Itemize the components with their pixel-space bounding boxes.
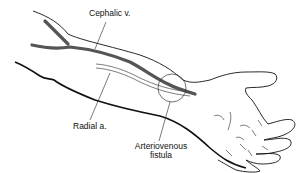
fistula-highlight-circle [158,74,186,102]
forearm-lower-outline [15,62,246,168]
fistula-leader-line [159,102,170,141]
cephalic-vein-branch [45,21,68,44]
hand-thumb-outline [210,72,277,100]
cephalic-vein [32,45,195,94]
label-arteriovenous-fistula: Arteriovenous fistula [132,142,190,160]
radial-leader-line [90,73,110,120]
label-fistula-line2: fistula [132,151,190,160]
label-radial-artery: Radial a. [73,122,107,131]
label-cephalic-vein: Cephalic v. [89,9,130,18]
palm-crease-lines [214,112,268,156]
radial-artery-lower [96,68,190,96]
